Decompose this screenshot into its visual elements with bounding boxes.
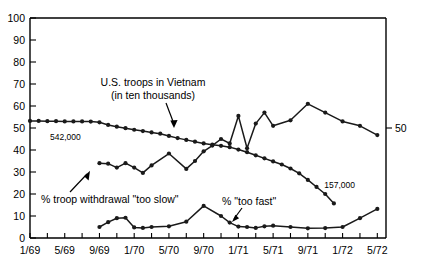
x-tick-label: 9/69: [89, 244, 110, 256]
y-tick-label: 70: [13, 78, 25, 90]
data-point: [37, 119, 41, 123]
x-tick-label: 1/69: [20, 244, 41, 256]
data-point: [54, 119, 58, 123]
data-point: [262, 224, 266, 228]
x-tick-label: 9/70: [193, 244, 214, 256]
x-tick-label: 5/72: [367, 244, 388, 256]
data-point: [228, 145, 232, 149]
y-tick-label: 30: [13, 166, 25, 178]
data-point: [358, 216, 362, 220]
y-tick-label: 80: [13, 56, 25, 68]
data-point: [106, 123, 110, 127]
data-point: [123, 126, 127, 130]
data-point: [245, 225, 249, 229]
data-point: [184, 167, 188, 171]
data-point: [149, 163, 153, 167]
data-point: [245, 146, 249, 150]
data-point: [80, 119, 84, 123]
data-point: [176, 136, 180, 140]
data-point: [158, 132, 162, 136]
data-point: [288, 225, 292, 229]
data-point: [132, 225, 136, 229]
line-chart: 0102030405060708090100 1/695/699/691/705…: [0, 0, 425, 266]
right-axis-labels: 50: [386, 122, 407, 134]
data-point: [167, 134, 171, 138]
data-point: [228, 141, 232, 145]
y-tick-label: 50: [13, 122, 25, 134]
right-axis-tick-label: 50: [395, 122, 407, 134]
data-point: [254, 122, 258, 126]
data-point: [89, 120, 93, 124]
troops-label-line2: (in ten thousands): [111, 89, 195, 101]
x-tick-label: 9/71: [298, 244, 319, 256]
data-point: [202, 149, 206, 153]
data-point: [132, 128, 136, 132]
data-point: [236, 114, 240, 118]
data-point: [254, 226, 258, 230]
data-point: [236, 147, 240, 151]
data-point: [271, 159, 275, 163]
data-point: [193, 159, 197, 163]
y-tick-label: 20: [13, 188, 25, 200]
troops-end-value-label: 157,000: [324, 180, 355, 190]
data-point: [123, 161, 127, 165]
too-slow-label: % troop withdrawal "too slow": [41, 193, 179, 205]
data-point: [71, 119, 75, 123]
data-point: [219, 137, 223, 141]
data-point: [141, 226, 145, 230]
data-point: [262, 111, 266, 115]
x-tick-label: 1/72: [332, 244, 353, 256]
data-point: [132, 166, 136, 170]
data-point: [45, 119, 49, 123]
data-point: [141, 129, 145, 133]
data-point: [297, 171, 301, 175]
data-point: [210, 144, 214, 148]
data-point: [141, 171, 145, 175]
data-point: [149, 225, 153, 229]
troops-label-line1: U.S. troops in Vietnam: [101, 76, 206, 88]
data-point: [280, 162, 284, 166]
data-point: [149, 130, 153, 134]
data-point: [115, 216, 119, 220]
data-point: [167, 224, 171, 228]
y-tick-label: 40: [13, 144, 25, 156]
data-point: [271, 224, 275, 228]
x-tick-label: 1/70: [124, 244, 145, 256]
x-tick-label: 5/70: [159, 244, 180, 256]
data-point: [340, 119, 344, 123]
data-point: [288, 118, 292, 122]
y-tick-label: 0: [19, 232, 25, 244]
data-point: [245, 150, 249, 154]
y-tick-label: 90: [13, 34, 25, 46]
data-point: [323, 111, 327, 115]
data-point: [262, 156, 266, 160]
data-point: [97, 225, 101, 229]
data-point: [97, 161, 101, 165]
x-tick-label: 5/69: [55, 244, 76, 256]
data-point: [323, 226, 327, 230]
data-point: [106, 220, 110, 224]
y-tick-label: 100: [7, 12, 25, 24]
data-point: [28, 119, 32, 123]
y-tick-label: 10: [13, 210, 25, 222]
data-point: [63, 119, 67, 123]
data-point: [323, 192, 327, 196]
data-point: [228, 221, 232, 225]
y-tick-label: 60: [13, 100, 25, 112]
data-point: [219, 214, 223, 218]
data-point: [184, 220, 188, 224]
troops-start-value-label: 542,000: [50, 132, 81, 142]
data-point: [358, 124, 362, 128]
data-point: [115, 125, 119, 129]
data-point: [106, 162, 110, 166]
data-point: [123, 216, 127, 220]
x-tick-label: 1/71: [228, 244, 249, 256]
data-point: [271, 124, 275, 128]
x-tick-label: 5/71: [263, 244, 284, 256]
data-point: [193, 140, 197, 144]
data-point: [306, 226, 310, 230]
data-point: [202, 204, 206, 208]
data-point: [219, 144, 223, 148]
data-point: [254, 153, 258, 157]
data-point: [332, 201, 336, 205]
